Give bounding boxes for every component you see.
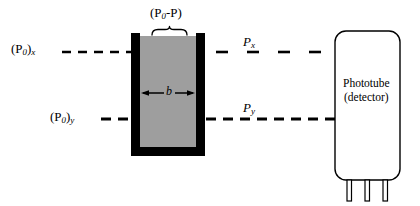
phototube-pin-1 [347, 180, 352, 201]
phototube-pin-2 [365, 180, 370, 201]
label-absorbed-light: (P0-P) [150, 6, 182, 21]
label-px-base: P [243, 34, 251, 49]
label-py-base: P [243, 100, 251, 115]
phototube-detector [335, 31, 400, 201]
label-p0x-open: (P [11, 41, 23, 56]
label-incident-beam-x: (P0)x [11, 42, 35, 57]
label-phototube-qualifier: (detector) [343, 92, 390, 104]
cuvette-bottom-wall [131, 147, 205, 156]
label-absorbed-open: (P [150, 5, 162, 20]
label-phototube: Phototube (detector) [343, 78, 390, 103]
label-px-axis: x [251, 40, 255, 50]
diagram-canvas [0, 0, 420, 206]
brace-path [152, 27, 187, 36]
phototube-body [335, 31, 400, 180]
label-transmitted-y: Py [243, 101, 255, 116]
label-p0y-open: (P [50, 109, 62, 124]
cuvette-left-wall [131, 33, 140, 156]
label-incident-beam-y: (P0)y [50, 110, 74, 125]
label-phototube-name: Phototube [343, 77, 390, 89]
figure-root: (P0)x (P0)y (P0-P) Px Py b Phototube (de… [0, 0, 420, 206]
cuvette-right-wall [196, 33, 205, 156]
label-absorbed-minus: -P) [166, 5, 182, 20]
label-p0y-axis: y [70, 115, 74, 125]
absorbed-light-brace [152, 27, 187, 36]
label-p0x-axis: x [31, 47, 35, 57]
label-transmitted-x: Px [243, 35, 255, 50]
label-path-length: b [166, 85, 172, 97]
phototube-pin-3 [383, 180, 388, 201]
label-py-axis: y [251, 106, 255, 116]
